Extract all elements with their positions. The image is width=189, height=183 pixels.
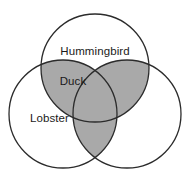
venn-diagram: Hummingbird Duck Lobster <box>0 0 189 183</box>
venn-diagram-canvas: Hummingbird Duck Lobster <box>0 0 189 183</box>
lobster-label: Lobster <box>30 112 69 124</box>
hummingbird-label: Hummingbird <box>60 45 129 57</box>
duck-label: Duck <box>60 75 87 87</box>
